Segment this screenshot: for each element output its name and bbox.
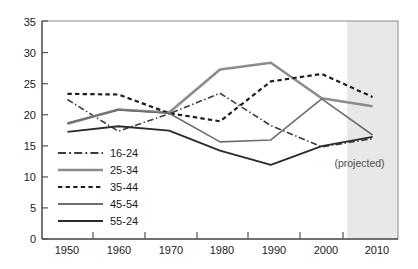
plot-area <box>42 21 398 239</box>
plot-background <box>42 21 398 239</box>
x-tick-label: 2000 <box>314 244 338 256</box>
x-tick-label: 1980 <box>210 244 234 256</box>
y-tick-label: 10 <box>24 171 36 183</box>
y-tick-label: 25 <box>24 78 36 90</box>
x-tick-label: 1990 <box>262 244 286 256</box>
legend-label: 16-24 <box>110 147 138 159</box>
y-tick-label: 20 <box>24 109 36 121</box>
legend-label: 35-44 <box>110 181 138 193</box>
x-axis-tick-labels: 1950 1960 1970 1980 1990 2000 2010 <box>55 244 389 256</box>
projected-label: (projected) <box>334 157 384 169</box>
chart-container: 0 5 10 15 20 25 30 35 1950 <box>0 0 418 269</box>
x-tick-label: 1950 <box>55 244 79 256</box>
legend-label: 45-54 <box>110 198 138 210</box>
y-tick-label: 5 <box>30 202 36 214</box>
line-chart: 0 5 10 15 20 25 30 35 1950 <box>0 0 418 269</box>
y-tick-label: 35 <box>24 16 36 28</box>
projected-band <box>347 21 398 239</box>
x-tick-label: 1970 <box>159 244 183 256</box>
y-tick-label: 30 <box>24 47 36 59</box>
x-tick-label: 2010 <box>365 244 389 256</box>
legend-label: 25-34 <box>110 164 138 176</box>
legend-label: 55-24 <box>110 215 138 227</box>
x-tick-label: 1960 <box>107 244 131 256</box>
y-tick-label: 0 <box>30 233 36 245</box>
y-tick-label: 15 <box>24 140 36 152</box>
y-axis-tick-labels: 0 5 10 15 20 25 30 35 <box>24 16 36 246</box>
